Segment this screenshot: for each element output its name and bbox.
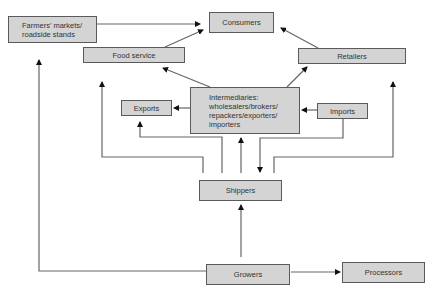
- edge-intermediaries-to-retailers: [287, 67, 307, 87]
- node-imports: Imports: [317, 103, 368, 119]
- node-label: Retailers: [337, 52, 367, 61]
- node-label: Farmers' markets/ roadside stands: [22, 21, 82, 39]
- node-label: Food service: [113, 51, 156, 60]
- node-shippers: Shippers: [199, 180, 282, 201]
- node-consumers: Consumers: [209, 12, 274, 33]
- supply-chain-diagram: Consumers Farmers' markets/ roadside sta…: [0, 0, 432, 295]
- node-retailers: Retailers: [298, 48, 406, 64]
- edge-retailers-to-consumers: [281, 28, 318, 48]
- node-exports: Exports: [121, 100, 172, 116]
- node-label: Consumers: [222, 18, 260, 27]
- node-label: Growers: [234, 270, 262, 279]
- node-growers: Growers: [206, 264, 290, 285]
- edge-foodservice-to-consumers: [165, 30, 203, 47]
- node-farmers-markets: Farmers' markets/ roadside stands: [8, 16, 97, 43]
- node-label: Intermediaries: wholesalers/brokers/ rep…: [209, 93, 278, 129]
- edge-intermediaries-to-foodservice: [163, 68, 210, 87]
- edge-growers-to-farmers: [39, 60, 206, 271]
- node-label: Exports: [134, 104, 159, 113]
- node-intermediaries: Intermediaries: wholesalers/brokers/ rep…: [190, 87, 300, 134]
- node-food-service: Food service: [83, 47, 185, 63]
- edge-shippers-to-foodservice: [102, 82, 203, 173]
- connector-lines: [0, 0, 432, 295]
- node-label: Shippers: [226, 186, 256, 195]
- node-label: Processors: [365, 268, 403, 277]
- node-label: Imports: [330, 107, 355, 116]
- node-processors: Processors: [342, 262, 425, 283]
